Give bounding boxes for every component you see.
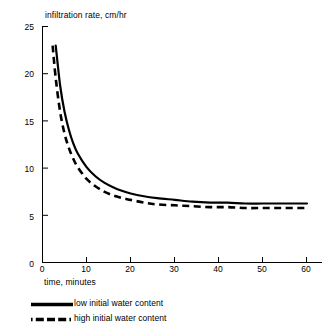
plot-area — [0, 0, 327, 335]
x-tick-marks — [43, 257, 307, 263]
legend-label-low-initial-water-content: low initial water content — [74, 298, 163, 309]
y-tick-marks — [43, 27, 49, 263]
legend-item-low-initial-water-content: low initial water content — [30, 296, 310, 311]
legend-item-high-initial-water-content: high initial water content — [30, 311, 310, 326]
series-line-low-initial-water-content — [56, 46, 307, 204]
series-line-high-initial-water-content — [53, 46, 307, 209]
legend-swatch-solid-line — [30, 298, 74, 310]
legend-swatch-dashed-line — [30, 313, 74, 325]
legend-label-high-initial-water-content: high initial water content — [74, 313, 167, 324]
chart-legend: low initial water content high initial w… — [30, 296, 310, 326]
infiltration-rate-chart: infiltration rate, cm/hr time, minutes 2… — [0, 0, 327, 335]
